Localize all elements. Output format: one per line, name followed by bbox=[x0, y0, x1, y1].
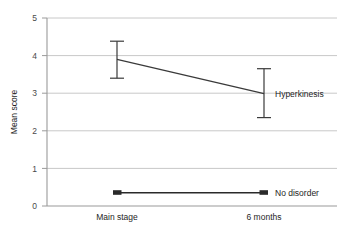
chart-container: 5 4 3 2 1 0 Mean score Hyperkinesis bbox=[0, 0, 360, 232]
series-label-no-disorder: No disorder bbox=[275, 188, 319, 198]
y-tick-label-4: 4 bbox=[32, 51, 37, 61]
x-category-label-6-months: 6 months bbox=[247, 212, 282, 222]
y-tick-label-3: 3 bbox=[32, 88, 37, 98]
y-tick-label-0: 0 bbox=[32, 201, 37, 211]
series-label-hyperkinesis: Hyperkinesis bbox=[275, 89, 324, 99]
x-category-label-main-stage: Main stage bbox=[96, 212, 138, 222]
y-tick-label-1: 1 bbox=[32, 164, 37, 174]
y-tick-label-5: 5 bbox=[32, 13, 37, 23]
y-axis-title: Mean score bbox=[9, 90, 19, 135]
series-marker-no-disorder-6-months bbox=[260, 190, 269, 195]
y-tick-label-2: 2 bbox=[32, 126, 37, 136]
line-chart: 5 4 3 2 1 0 Mean score Hyperkinesis bbox=[0, 0, 360, 232]
series-marker-no-disorder-main-stage bbox=[113, 190, 122, 195]
